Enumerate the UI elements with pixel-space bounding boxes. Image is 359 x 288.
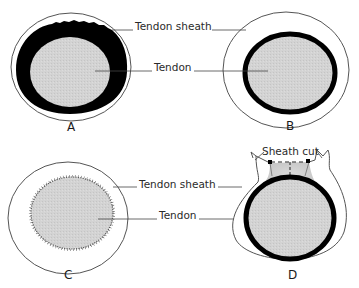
cut-marker [306,159,310,163]
panel-c: C [8,162,128,282]
tendon [31,177,113,249]
sheath-cut-label-group: Sheath cut [255,145,322,160]
label-sheath-cut: Sheath cut [262,145,319,157]
label-tendon: Tendon [153,61,192,73]
panel-d: D [233,150,347,282]
tendon [30,37,110,107]
dark-ring [245,34,335,112]
tendon-sheath-diagram: A B Tendon sheath Tendon C Tendon s [0,0,359,288]
panel-label-d: D [288,268,297,282]
panel-label-a: A [67,120,76,134]
panel-label-b: B [286,119,294,133]
dark-ring [246,177,334,259]
panel-label-c: C [64,268,72,282]
panel-a: A [11,13,131,134]
label-tendon-sheath: Tendon sheath [138,178,216,190]
label-tendon: Tendon [158,209,197,221]
label-tendon-sheath: Tendon sheath [134,20,212,32]
cut-marker [268,160,272,164]
